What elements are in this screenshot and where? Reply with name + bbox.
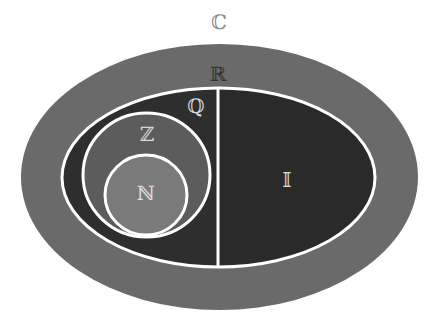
rational-label: ℚ: [187, 94, 204, 118]
real-label: ℝ: [210, 62, 227, 86]
number-sets-diagram: ℂ ℝ ℚ ℤ ℕ 𝕀: [0, 0, 437, 325]
irrational-label: 𝕀: [282, 168, 291, 192]
natural-label: ℕ: [137, 181, 155, 205]
integer-label: ℤ: [140, 122, 155, 146]
complex-label: ℂ: [211, 10, 227, 34]
